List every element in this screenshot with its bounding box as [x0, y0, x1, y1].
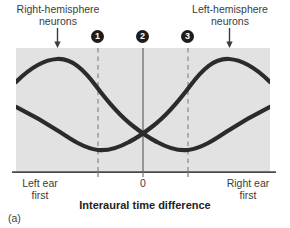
annotation-right-hemisphere-line1: Right-hemisphere: [6, 4, 110, 16]
arrow-down-icon-left-peak: [53, 28, 62, 48]
callout-badge-1[interactable]: 1: [91, 30, 104, 43]
annotation-left-hemisphere-label: Left-hemisphere neurons: [178, 4, 282, 27]
plot-area: [16, 48, 270, 172]
x-axis-label-left-line1: Left ear: [8, 178, 72, 190]
panel-letter: (a): [8, 212, 21, 224]
x-axis-label-zero: 0: [123, 178, 163, 190]
callout-badge-3[interactable]: 3: [181, 30, 194, 43]
annotation-right-hemisphere-label: Right-hemisphere neurons: [6, 4, 110, 27]
x-axis-label-right-line1: Right ear: [214, 178, 282, 190]
x-axis-title: Interaural time difference: [32, 199, 258, 211]
arrow-down-icon-right-peak: [225, 28, 234, 48]
annotation-right-hemisphere-line2: neurons: [6, 16, 110, 28]
callout-badge-2[interactable]: 2: [136, 30, 149, 43]
x-axis-label-right-ear-first: Right ear first: [214, 178, 282, 201]
x-axis-label-left-ear-first: Left ear first: [8, 178, 72, 201]
curves-svg: [16, 48, 270, 172]
figure-panel-a: Right-hemisphere neurons Left-hemisphere…: [0, 0, 290, 228]
annotation-left-hemisphere-line1: Left-hemisphere: [178, 4, 282, 16]
annotation-left-hemisphere-line2: neurons: [178, 16, 282, 28]
